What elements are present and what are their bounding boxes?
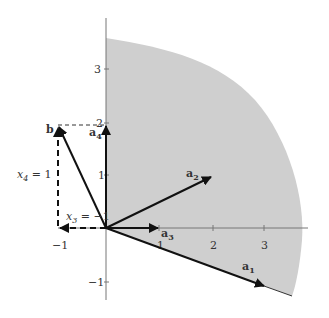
x-tick-label-neg1: −1 bbox=[52, 239, 68, 252]
x-tick-label-3: 3 bbox=[261, 239, 268, 252]
x-tick-label-2: 2 bbox=[210, 239, 217, 252]
annotation-x4: x4 = 1 bbox=[17, 168, 52, 183]
y-tick-label-neg1: −1 bbox=[88, 276, 104, 289]
y-tick-label-3: 3 bbox=[94, 63, 101, 76]
label-b: b bbox=[46, 123, 54, 136]
cone-diagram: −1 1 2 3 3 2 1 −1 b a4 a3 a2 a1 x4 = 1 x… bbox=[0, 0, 329, 318]
x-tick-label-1: 1 bbox=[157, 239, 164, 252]
y-tick-label-1: 1 bbox=[98, 169, 105, 182]
cone-region bbox=[106, 38, 302, 296]
y-tick-label-2: 2 bbox=[96, 117, 103, 130]
annotation-x3: x3 = −1 bbox=[66, 210, 110, 225]
